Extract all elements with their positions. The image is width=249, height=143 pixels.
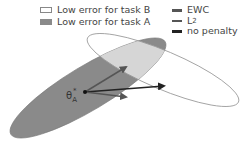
region-legend: Low error for task B Low error for task … — [40, 4, 150, 28]
task-a-region — [0, 23, 176, 143]
line-swatch-icon — [172, 20, 182, 23]
method-legend: EWC L2 no penalty — [172, 5, 238, 37]
theta-a-star-point — [83, 90, 87, 94]
legend-item-ewc: EWC — [172, 5, 238, 16]
legend-item-task-b: Low error for task B — [40, 4, 150, 16]
line-swatch-icon — [172, 30, 182, 33]
legend-item-task-a: Low error for task A — [40, 16, 150, 28]
gray-swatch-icon — [40, 19, 52, 25]
legend-item-no-penalty: no penalty — [172, 26, 238, 37]
white-swatch-icon — [40, 7, 52, 13]
line-swatch-icon — [172, 9, 182, 12]
